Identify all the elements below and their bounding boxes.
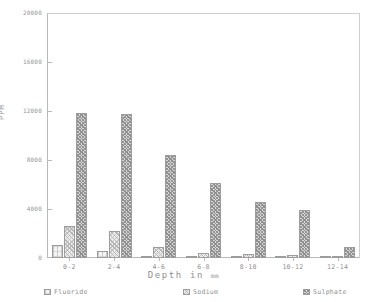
x-tick-mark bbox=[204, 258, 205, 261]
bar-fluoride-8-10 bbox=[231, 256, 242, 258]
bar-chart: PPM 040008000120001600020000 0-22-44-66-… bbox=[0, 0, 367, 302]
legend-swatch-icon bbox=[44, 289, 51, 295]
bar-sulphate-4-6 bbox=[165, 155, 176, 258]
legend-item-sodium[interactable]: Sodium bbox=[183, 288, 218, 296]
bar-sulphate-8-10 bbox=[255, 202, 266, 258]
bar-fluoride-6-8 bbox=[186, 256, 197, 258]
bar-sulphate-10-12 bbox=[299, 210, 310, 258]
plot-area bbox=[47, 13, 360, 258]
bar-sulphate-6-8 bbox=[210, 183, 221, 258]
x-tick-mark bbox=[248, 258, 249, 261]
legend-label: Sulphate bbox=[313, 288, 347, 296]
legend-swatch-icon bbox=[183, 289, 190, 295]
y-tick-label: 16000 bbox=[2, 59, 42, 65]
bar-sulphate-0-2 bbox=[76, 113, 87, 258]
bar-sodium-2-4 bbox=[109, 231, 120, 258]
legend-item-fluoride[interactable]: Fluoride bbox=[44, 288, 88, 296]
legend-item-sulphate[interactable]: Sulphate bbox=[303, 288, 347, 296]
legend-label: Fluoride bbox=[54, 288, 88, 296]
bar-fluoride-0-2 bbox=[52, 245, 63, 258]
bar-sulphate-2-4 bbox=[121, 114, 132, 258]
x-tick-mark bbox=[114, 258, 115, 261]
y-tick-label: 8000 bbox=[2, 157, 42, 163]
x-tick-mark bbox=[338, 258, 339, 261]
legend-swatch-icon bbox=[303, 289, 310, 295]
x-axis-title-text: Depth in bbox=[148, 270, 204, 280]
y-tick-label: 20000 bbox=[2, 10, 42, 16]
x-axis-title: Depth in mm bbox=[0, 270, 367, 280]
x-tick-mark bbox=[293, 258, 294, 261]
bar-sodium-4-6 bbox=[153, 247, 164, 258]
legend-label: Sodium bbox=[193, 288, 218, 296]
x-tick-mark bbox=[69, 258, 70, 261]
bar-fluoride-12-14 bbox=[320, 256, 331, 258]
bar-fluoride-2-4 bbox=[97, 251, 108, 258]
x-axis-unit: mm bbox=[211, 272, 219, 279]
y-tick-label: 0 bbox=[2, 255, 42, 261]
bar-sodium-0-2 bbox=[64, 226, 75, 258]
chart-legend: FluorideSodiumSulphate bbox=[0, 288, 367, 302]
bar-fluoride-4-6 bbox=[141, 256, 152, 258]
x-tick-mark bbox=[159, 258, 160, 261]
bar-fluoride-10-12 bbox=[275, 256, 286, 258]
bar-sulphate-12-14 bbox=[344, 247, 355, 258]
y-tick-label: 12000 bbox=[2, 108, 42, 114]
y-tick-label: 4000 bbox=[2, 206, 42, 212]
